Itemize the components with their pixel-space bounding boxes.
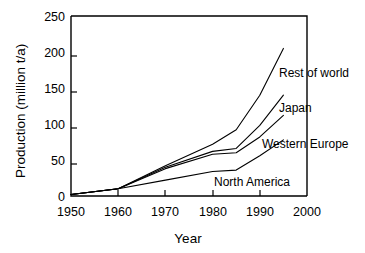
x-tick-label-1960: 1960 [104,205,132,219]
y-tick-label-250: 250 [44,10,65,24]
y-tick-label-100: 100 [44,118,65,132]
x-tick-label-1950: 1950 [57,205,85,219]
x-tick-label-1970: 1970 [151,205,179,219]
x-tick-label-1990: 1990 [246,205,274,219]
y-tick-label-150: 150 [44,82,65,96]
series-label-japan: Japan [279,101,312,115]
series-label-western-europe: Western Europe [262,137,349,151]
series-label-rest-of-world: Rest of world [279,66,349,80]
y-tick-label-0: 0 [58,190,65,204]
y-tick-label-50: 50 [51,154,65,168]
chart-container: Production (million t/a) Year 250 200 15… [0,0,365,253]
production-line-chart: Production (million t/a) Year 250 200 15… [0,0,365,253]
y-axis-title: Production (million t/a) [13,44,28,178]
x-tick-label-1980: 1980 [199,205,227,219]
series-line-rest-of-world [71,48,283,194]
x-tick-label-2000: 2000 [293,205,321,219]
y-tick-label-200: 200 [44,46,65,60]
series-label-north-america: North America [214,175,290,189]
axis-frame [71,16,307,196]
x-axis-title: Year [174,231,202,246]
